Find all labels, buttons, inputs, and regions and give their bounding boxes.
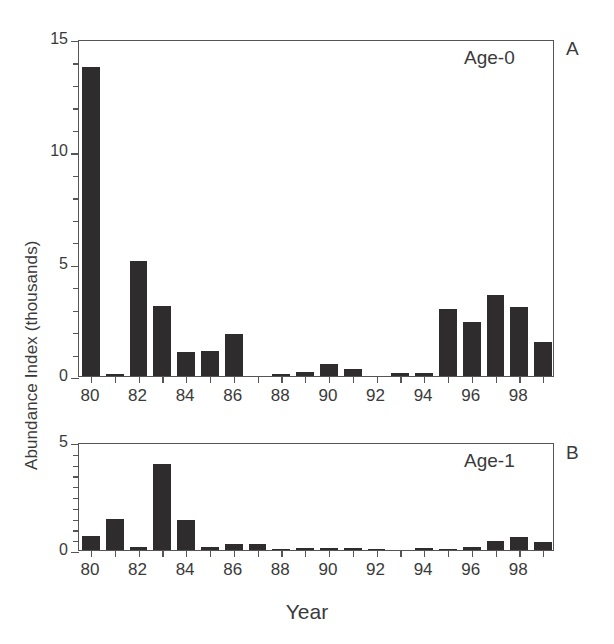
y-axis-minor-tick (73, 63, 79, 64)
panel-a-y-ticks (79, 41, 553, 376)
y-axis-major-tick (71, 153, 79, 154)
panel-b-series-label: Age-1 (464, 450, 515, 472)
y-axis-minor-tick (73, 333, 79, 334)
y-axis-minor-tick (73, 466, 79, 467)
x-axis-tick-label: 80 (70, 560, 110, 580)
y-axis-minor-tick (73, 176, 79, 177)
x-axis-tick (234, 550, 235, 557)
x-axis-tick-label: 92 (356, 560, 396, 580)
x-axis-tick (472, 376, 473, 383)
y-axis-minor-tick (73, 198, 79, 199)
y-axis-major-tick (71, 266, 79, 267)
x-axis-tick (519, 550, 520, 557)
x-axis-tick (234, 376, 235, 383)
panel-b-tag: B (566, 442, 579, 464)
x-axis-tick (424, 376, 425, 383)
x-axis-tick (543, 376, 544, 383)
x-axis-tick (281, 376, 282, 383)
x-axis-tick-label: 96 (451, 560, 491, 580)
x-axis-tick (424, 550, 425, 557)
y-axis-minor-tick (73, 476, 79, 477)
figure-container: Abundance Index (thousands) 051015 80828… (0, 0, 614, 644)
x-axis-tick (258, 550, 259, 557)
panel-a-series-label: Age-0 (464, 47, 515, 69)
y-axis-minor-tick (73, 288, 79, 289)
x-axis-tick (210, 550, 211, 557)
x-axis-tick (139, 376, 140, 383)
y-axis-major-tick (71, 378, 79, 379)
x-axis-tick (115, 376, 116, 383)
x-axis-tick-label: 82 (118, 386, 158, 406)
y-axis-minor-tick (73, 455, 79, 456)
y-axis-major-tick (71, 552, 79, 553)
x-axis-tick-label: 86 (213, 560, 253, 580)
y-axis-minor-tick (73, 487, 79, 488)
x-axis-tick-label: 88 (260, 560, 300, 580)
y-axis-minor-tick (73, 243, 79, 244)
y-axis-tick-label: 10 (28, 142, 68, 160)
x-axis-tick (162, 376, 163, 383)
panel-a-plot-area (78, 40, 554, 377)
x-axis-title: Year (0, 600, 614, 624)
y-axis-tick-label: 5 (28, 433, 68, 451)
x-axis-tick-label: 92 (356, 386, 396, 406)
x-axis-tick (91, 376, 92, 383)
y-axis-major-tick (71, 41, 79, 42)
x-axis-tick (162, 550, 163, 557)
x-axis-tick-label: 88 (260, 386, 300, 406)
x-axis-tick (115, 550, 116, 557)
x-axis-tick-label: 82 (118, 560, 158, 580)
y-axis-tick-label: 5 (28, 255, 68, 273)
x-axis-tick (543, 550, 544, 557)
x-axis-tick (329, 550, 330, 557)
y-axis-minor-tick (73, 520, 79, 521)
panel-a-x-ticks (79, 376, 553, 383)
x-axis-tick-label: 98 (498, 386, 538, 406)
y-axis-minor-tick (73, 131, 79, 132)
x-axis-tick (377, 550, 378, 557)
y-axis-tick-label: 0 (28, 541, 68, 559)
x-axis-tick (305, 550, 306, 557)
y-axis-minor-tick (73, 311, 79, 312)
x-axis-tick (400, 376, 401, 383)
y-axis-minor-tick (73, 221, 79, 222)
x-axis-tick (496, 376, 497, 383)
x-axis-tick (448, 376, 449, 383)
x-axis-tick (258, 376, 259, 383)
y-axis-minor-tick (73, 498, 79, 499)
x-axis-tick (496, 550, 497, 557)
x-axis-tick-label: 94 (403, 386, 443, 406)
x-axis-tick (353, 550, 354, 557)
x-axis-tick (472, 550, 473, 557)
x-axis-tick (519, 376, 520, 383)
x-axis-tick-label: 80 (70, 386, 110, 406)
x-axis-tick (305, 376, 306, 383)
x-axis-tick-label: 94 (403, 560, 443, 580)
x-axis-tick-label: 86 (213, 386, 253, 406)
x-axis-tick-label: 84 (165, 560, 205, 580)
x-axis-tick-label: 90 (308, 560, 348, 580)
y-axis-major-tick (71, 444, 79, 445)
panel-b-x-ticks (79, 550, 553, 557)
x-axis-tick (210, 376, 211, 383)
x-axis-tick (329, 376, 330, 383)
x-axis-tick (281, 550, 282, 557)
x-axis-tick-label: 90 (308, 386, 348, 406)
x-axis-tick (448, 550, 449, 557)
y-axis-minor-tick (73, 509, 79, 510)
x-axis-tick (353, 376, 354, 383)
x-axis-tick (377, 376, 378, 383)
x-axis-tick-label: 96 (451, 386, 491, 406)
x-axis-tick (139, 550, 140, 557)
panel-a-tag: A (566, 38, 579, 60)
y-axis-minor-tick (73, 108, 79, 109)
y-axis-minor-tick (73, 86, 79, 87)
x-axis-tick-label: 98 (498, 560, 538, 580)
y-axis-tick-label: 15 (28, 30, 68, 48)
x-axis-tick-label: 84 (165, 386, 205, 406)
y-axis-minor-tick (73, 356, 79, 357)
x-axis-tick (186, 550, 187, 557)
x-axis-tick (91, 550, 92, 557)
y-axis-tick-label: 0 (28, 367, 68, 385)
x-axis-tick (400, 550, 401, 557)
